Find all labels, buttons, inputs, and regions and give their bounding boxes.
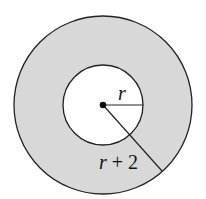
outer-radius-label: r + 2 — [99, 151, 138, 173]
outer-radius-suffix: + 2 — [107, 151, 138, 173]
inner-radius-label: r — [118, 82, 126, 104]
annulus-diagram: r r + 2 — [0, 0, 206, 199]
center-point — [100, 102, 107, 109]
